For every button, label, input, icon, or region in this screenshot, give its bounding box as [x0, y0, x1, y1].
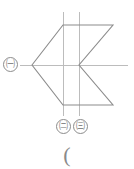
circled-label-c: ㈢	[73, 119, 88, 134]
caption-parenthesis: (	[57, 142, 77, 168]
circled-label-a: ㈠	[3, 57, 18, 72]
circled-label-b: ㈡	[56, 119, 71, 134]
construction-guides	[20, 12, 128, 116]
diagram-canvas: ㈠ ㈡ ㈢ (	[0, 0, 134, 169]
